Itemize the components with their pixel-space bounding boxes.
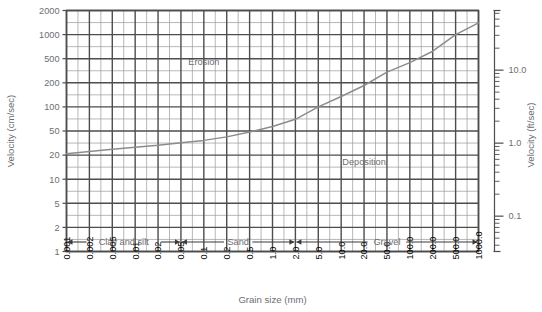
x-axis-tick-label-0.5: 0.5 <box>245 247 255 260</box>
x-axis-tick-label-2.0: 2.0 <box>291 247 301 260</box>
x-axis-tick-label-10.0: 10.0 <box>337 242 347 260</box>
band-label-sand: Sand <box>227 237 248 247</box>
y-axis-title: Velocity (cm/sec) <box>5 95 16 168</box>
annotation-erosion: Erosion <box>188 57 219 67</box>
x-axis-title: Grain size (mm) <box>238 294 306 305</box>
x-axis-tick-label-1000.0: 1000.0 <box>474 231 484 259</box>
x-axis-tick-label-20.0: 20.0 <box>359 242 369 260</box>
x-axis-tick-label-0.05: 0.05 <box>176 242 186 260</box>
right-axis-tick-label-10.0: 10.0 <box>509 65 527 75</box>
band-label-clay-and-silt: Clay and silt <box>99 237 149 247</box>
y-axis-tick-label-500: 500 <box>44 54 59 64</box>
hjulstrom-diagram-figure: 200010005002001005020105210.0010.0020.00… <box>0 0 542 312</box>
right-axis-title: Velocity (ft/sec) <box>525 102 536 167</box>
x-axis-tick-label-1.0: 1.0 <box>268 247 278 260</box>
x-axis-tick-label-0.001: 0.001 <box>62 237 72 260</box>
chart-canvas: 200010005002001005020105210.0010.0020.00… <box>0 0 542 312</box>
y-axis-tick-label-10: 10 <box>49 175 59 185</box>
y-axis-tick-label-2: 2 <box>54 223 59 233</box>
y-axis-tick-label-2000: 2000 <box>39 6 59 16</box>
x-axis-tick-label-0.002: 0.002 <box>85 237 95 260</box>
y-axis-tick-label-50: 50 <box>49 126 59 136</box>
x-axis-tick-label-0.2: 0.2 <box>222 247 232 260</box>
x-axis-tick-label-0.1: 0.1 <box>199 247 209 260</box>
y-axis-tick-label-100: 100 <box>44 102 59 112</box>
y-axis-tick-label-200: 200 <box>44 78 59 88</box>
y-axis-tick-label-5: 5 <box>54 199 59 209</box>
y-axis-tick-label-20: 20 <box>49 150 59 160</box>
x-axis-tick-label-100.0: 100.0 <box>405 237 415 260</box>
x-axis-tick-label-0.02: 0.02 <box>153 242 163 260</box>
band-label-gravel: Gravel <box>373 237 400 247</box>
x-axis-tick-label-500.0: 500.0 <box>451 237 461 260</box>
y-axis-tick-label-1000: 1000 <box>39 30 59 40</box>
x-axis-tick-label-5.0: 5.0 <box>314 247 324 260</box>
x-axis-tick-label-200.0: 200.0 <box>428 237 438 260</box>
right-axis-tick-label-0.1: 0.1 <box>509 211 522 221</box>
y-axis-tick-label-1: 1 <box>54 247 59 257</box>
annotation-deposition: Deposition <box>342 157 385 167</box>
right-axis-tick-label-100.0: 100.0 <box>509 0 532 2</box>
right-axis-tick-label-1.0: 1.0 <box>509 138 522 148</box>
